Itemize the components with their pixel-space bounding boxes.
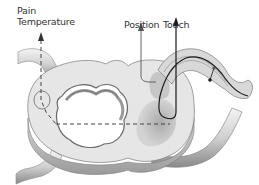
ganglion-cell-body <box>208 78 212 82</box>
pain-temperature-arrowhead <box>38 32 44 41</box>
label-pain: Pain <box>17 5 36 16</box>
central-section-cutaway <box>57 85 128 148</box>
spinal-cord-diagram: Pain Temperature Position Touch <box>0 0 259 185</box>
label-temperature: Temperature <box>17 16 75 27</box>
label-position: Position <box>124 19 159 30</box>
label-touch: Touch <box>163 19 189 30</box>
